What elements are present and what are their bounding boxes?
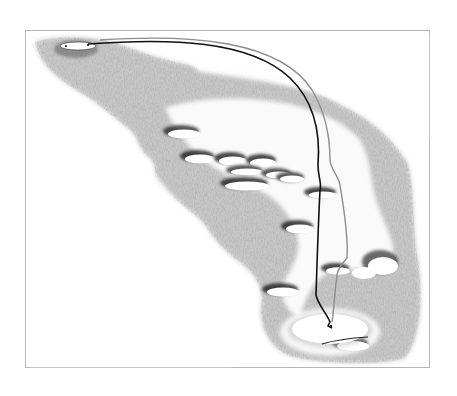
hole-map xyxy=(0,0,457,396)
hole-flag-icon xyxy=(330,325,332,327)
golf-hole-diagram xyxy=(0,0,457,396)
tee-box xyxy=(54,40,98,58)
tee-marker-icon xyxy=(65,45,67,47)
putting-green xyxy=(288,313,372,347)
rough-area xyxy=(30,34,428,366)
